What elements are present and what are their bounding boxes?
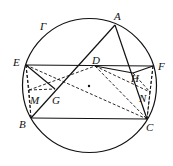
label-M: M <box>29 94 40 106</box>
center-dot <box>88 85 90 87</box>
label-G: G <box>52 94 60 106</box>
label-C: C <box>146 121 154 133</box>
gamma-label: Γ <box>39 20 47 32</box>
label-H: H <box>130 72 140 84</box>
label-E: E <box>12 56 20 68</box>
segment-DH <box>95 66 133 73</box>
segment-EM <box>26 65 29 90</box>
segment-MG <box>29 89 55 90</box>
segment-MD <box>29 66 95 90</box>
geometry-diagram: ABCDEFGHMN Γ <box>0 0 173 166</box>
label-F: F <box>157 60 165 72</box>
segment-BC <box>31 118 147 119</box>
segment-BA <box>31 25 115 118</box>
label-A: A <box>113 10 121 22</box>
label-D: D <box>91 54 100 66</box>
label-B: B <box>19 118 26 130</box>
segment-EC <box>26 65 147 119</box>
label-N: N <box>138 92 147 104</box>
segment-EF <box>26 65 153 66</box>
segment-FC <box>147 66 153 119</box>
